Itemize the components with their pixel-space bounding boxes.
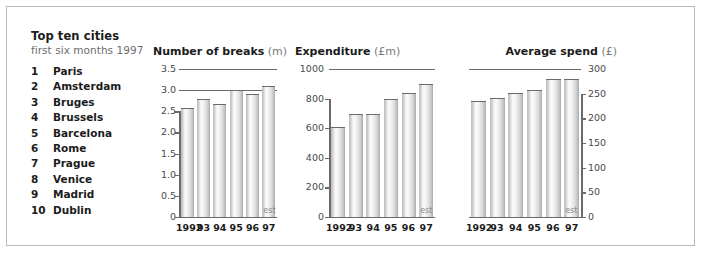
city-rank-number: 6 xyxy=(31,142,53,154)
bar xyxy=(197,99,210,217)
list-item: 2Amsterdam xyxy=(31,80,151,95)
infographic-panel: Top ten cities first six months 1997 1Pa… xyxy=(6,6,695,246)
y-axis-tick xyxy=(582,217,586,218)
x-axis-line xyxy=(179,217,277,218)
y-axis-tick xyxy=(582,168,586,169)
chart-title-text: Average spend xyxy=(506,45,598,58)
y-axis-tick xyxy=(582,94,586,95)
chart-gridline xyxy=(329,69,435,70)
city-name: Rome xyxy=(53,142,86,154)
x-axis-line xyxy=(469,217,581,218)
y-axis-tick xyxy=(325,128,329,129)
y-axis-tick xyxy=(325,158,329,159)
x-axis-line xyxy=(329,217,435,218)
y-axis-tick xyxy=(325,99,329,100)
y-axis-tick-label: 200 xyxy=(588,113,606,123)
bar xyxy=(331,127,345,217)
bar xyxy=(490,98,505,217)
y-axis-tick-label: 600 xyxy=(306,123,324,133)
bar xyxy=(366,114,380,217)
chart-unit-label: (£) xyxy=(598,45,617,58)
chart-title-text: Expenditure xyxy=(295,45,370,58)
chart-unit-label: (m) xyxy=(264,45,287,58)
y-axis-tick-label: 200 xyxy=(306,182,324,192)
chart-gridline xyxy=(179,69,277,70)
list-item: 6Rome xyxy=(31,142,151,157)
list-item: 9Madrid xyxy=(31,188,151,203)
y-axis-tick-label: 250 xyxy=(588,89,606,99)
city-rank-number: 3 xyxy=(31,96,53,108)
bar xyxy=(181,108,194,217)
y-axis-tick-label: 50 xyxy=(588,187,600,197)
city-rank-number: 5 xyxy=(31,127,53,139)
list-item: 8Venice xyxy=(31,173,151,188)
city-name: Barcelona xyxy=(53,127,112,139)
city-name: Madrid xyxy=(53,188,94,200)
y-axis-tick-label: 3.0 xyxy=(161,85,176,95)
city-name: Brussels xyxy=(53,111,103,123)
city-name: Bruges xyxy=(53,96,95,108)
city-name: Amsterdam xyxy=(53,80,121,92)
estimate-annotation: est xyxy=(420,207,432,215)
bar xyxy=(402,93,416,217)
panel-title: Top ten cities xyxy=(31,29,151,43)
city-name: Paris xyxy=(53,65,83,77)
city-ranking-list: 1Paris2Amsterdam3Bruges4Brussels5Barcelo… xyxy=(31,65,151,219)
y-axis-tick-label: 0 xyxy=(318,212,324,222)
y-axis-tick-label: 2.0 xyxy=(161,127,176,137)
y-axis-tick-label: 800 xyxy=(306,94,324,104)
y-axis-tick xyxy=(325,217,329,218)
y-axis-tick-label: 400 xyxy=(306,153,324,163)
city-rank-number: 1 xyxy=(31,65,53,77)
bar xyxy=(471,101,486,217)
y-axis-tick-label: 3.5 xyxy=(161,64,176,74)
y-axis-tick xyxy=(582,118,586,119)
x-axis-tick-label: 97 xyxy=(258,223,280,233)
city-rank-number: 8 xyxy=(31,173,53,185)
bar xyxy=(419,84,433,217)
chart-gridline xyxy=(469,69,581,70)
city-name: Dublin xyxy=(53,204,91,216)
chart-title: Expenditure (£m) xyxy=(295,45,400,58)
city-rank-number: 10 xyxy=(31,204,53,216)
city-rank-number: 9 xyxy=(31,188,53,200)
y-axis-tick-label: 100 xyxy=(588,163,606,173)
y-axis-line xyxy=(329,99,331,218)
chart-unit-label: (£m) xyxy=(370,45,400,58)
bar xyxy=(246,94,259,217)
bar xyxy=(564,79,579,217)
bar xyxy=(546,79,561,217)
x-axis-tick-label: 97 xyxy=(414,223,438,233)
y-axis-tick-label: 0 xyxy=(170,212,176,222)
list-item: 7Prague xyxy=(31,157,151,172)
panel-subtitle: first six months 1997 xyxy=(31,44,151,56)
list-item: 3Bruges xyxy=(31,96,151,111)
y-axis-tick-label: 1.5 xyxy=(161,149,176,159)
y-axis-tick-label: 300 xyxy=(588,64,606,74)
list-item: 10Dublin xyxy=(31,204,151,219)
list-item: 5Barcelona xyxy=(31,127,151,142)
city-name: Venice xyxy=(53,173,92,185)
bar xyxy=(508,93,523,217)
y-axis-tick-label: 0.5 xyxy=(161,191,176,201)
chart-title: Number of breaks (m) xyxy=(153,45,287,58)
y-axis-tick-label: 150 xyxy=(588,138,606,148)
chart-title: Average spend (£) xyxy=(506,45,617,58)
y-axis-tick-label: 1000 xyxy=(300,64,324,74)
top-ten-cities-panel: Top ten cities first six months 1997 1Pa… xyxy=(31,29,151,219)
bar xyxy=(213,104,226,217)
y-axis-tick-label: 0 xyxy=(588,212,594,222)
estimate-annotation: est xyxy=(263,207,275,215)
city-rank-number: 4 xyxy=(31,111,53,123)
city-name: Prague xyxy=(53,157,95,169)
y-axis-tick-label: 2.5 xyxy=(161,106,176,116)
y-axis-line xyxy=(179,111,181,218)
estimate-annotation: est xyxy=(565,207,577,215)
city-rank-number: 2 xyxy=(31,80,53,92)
y-axis-tick xyxy=(582,192,586,193)
chart-title-text: Number of breaks xyxy=(153,45,264,58)
bar xyxy=(262,86,275,217)
city-rank-number: 7 xyxy=(31,157,53,169)
y-axis-tick xyxy=(582,143,586,144)
x-axis-tick-label: 97 xyxy=(559,223,584,233)
